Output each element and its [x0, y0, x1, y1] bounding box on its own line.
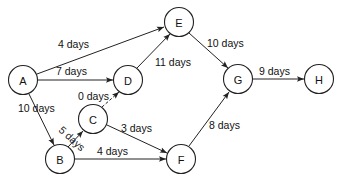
node-c: C — [79, 105, 108, 134]
node-label-c: C — [89, 114, 97, 126]
node-label-d: D — [124, 75, 132, 87]
node-label-a: A — [19, 75, 27, 87]
node-label-b: B — [56, 154, 63, 166]
edge-label-g-h: 9 days — [259, 65, 290, 77]
edge-label-a-e: 4 days — [58, 38, 89, 50]
node-label-f: F — [178, 154, 185, 166]
edge-label-d-e: 11 days — [155, 56, 191, 68]
edge-label-a-b: 10 days — [18, 102, 55, 114]
node-label-h: H — [315, 74, 323, 86]
edge-label-c-f: 3 days — [121, 122, 152, 134]
edge-label-a-d: 7 days — [56, 65, 87, 77]
edge-label-c-d: 0 days — [78, 90, 109, 102]
node-b: B — [46, 145, 75, 174]
node-e: E — [165, 8, 194, 37]
node-f: F — [167, 145, 196, 174]
node-g: G — [224, 65, 253, 94]
node-label-g: G — [234, 74, 243, 86]
node-d: D — [114, 66, 143, 95]
edge-label-e-g: 10 days — [207, 37, 244, 49]
node-a: A — [9, 66, 38, 95]
node-label-e: E — [175, 17, 182, 29]
network-diagram: 4 days 7 days 10 days 11 days 0 days 5 d… — [0, 0, 339, 184]
edge-label-f-g: 8 days — [209, 119, 240, 131]
edge-label-b-f: 4 days — [97, 145, 128, 157]
node-h: H — [305, 65, 334, 94]
